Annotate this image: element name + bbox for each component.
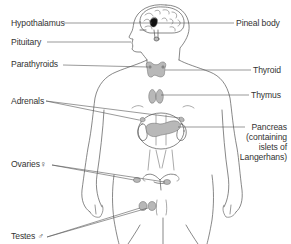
brain-folds	[144, 10, 180, 31]
leader-parathyroids	[63, 65, 148, 67]
leader-ovaries-1	[52, 165, 134, 180]
label-pancreas-line-3: islets of	[217, 142, 287, 152]
left-adrenal	[140, 118, 145, 122]
label-testes: Testes ♂	[11, 231, 44, 241]
label-pancreas-line-1: Pancreas	[217, 122, 287, 132]
uterus	[146, 174, 176, 190]
leader-testes-1	[47, 208, 140, 237]
brain-outline	[140, 7, 184, 33]
leader-adrenals-2	[46, 101, 180, 118]
label-adrenals: Adrenals	[11, 96, 44, 106]
label-pituitary: Pituitary	[11, 37, 41, 47]
left-torso-outline	[82, 60, 147, 212]
label-hypothalamus: Hypothalamus	[11, 18, 65, 28]
thyroid-gland	[146, 62, 166, 77]
label-pineal-body: Pineal body	[236, 18, 280, 28]
label-thymus: Thymus	[251, 90, 281, 100]
label-pancreas-line-4: Langerhans)	[217, 152, 287, 162]
leader-testes-2	[47, 208, 148, 237]
label-thyroid: Thyroid	[253, 65, 281, 75]
pineal-body	[150, 18, 157, 27]
label-parathyroids: Parathyroids	[11, 59, 58, 69]
right-testis	[148, 202, 156, 211]
label-pancreas-line-2: (containing	[217, 132, 287, 142]
label-ovaries: Ovaries♀	[11, 159, 46, 169]
label-pancreas: Pancreas (containing islets of Langerhan…	[217, 122, 287, 162]
thymus-gland	[149, 89, 156, 103]
pancreas	[146, 121, 180, 137]
